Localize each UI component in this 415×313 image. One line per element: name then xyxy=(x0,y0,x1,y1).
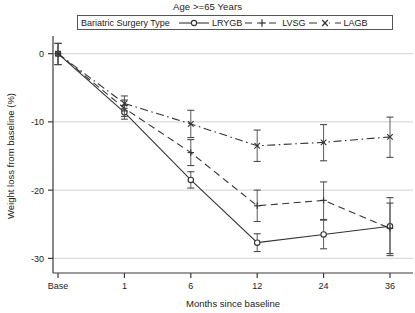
series-lrygb xyxy=(55,43,394,255)
y-tick-label: -20 xyxy=(31,186,44,196)
y-tick-label: 0 xyxy=(39,49,44,59)
series-lvsg xyxy=(55,43,394,253)
axis-spines xyxy=(53,36,413,273)
x-axis-title: Months since baseline xyxy=(186,298,280,309)
x-tick-label: 24 xyxy=(319,281,329,291)
data-series-layer xyxy=(55,43,394,255)
series-line xyxy=(58,54,390,146)
x-tick-label: 12 xyxy=(252,281,262,291)
series-line xyxy=(58,54,390,243)
x-axis-ticks: Base16122436 xyxy=(48,273,395,291)
y-axis-title: Weight loss from baseline (%) xyxy=(5,93,16,219)
data-point-marker xyxy=(188,149,194,155)
x-tick-label: 36 xyxy=(385,281,395,291)
data-point-marker xyxy=(188,177,193,182)
data-point-marker xyxy=(255,240,260,245)
y-tick-label: -10 xyxy=(31,117,44,127)
data-point-marker xyxy=(321,232,326,237)
chart-plot-area: 0-10-20-30 Base16122436 Months since bas… xyxy=(0,0,415,313)
x-tick-label: Base xyxy=(48,281,69,291)
chart-figure: Age >=65 Years Bariatric Surgery Type LR… xyxy=(0,0,415,313)
x-tick-label: 1 xyxy=(122,281,127,291)
y-tick-label: -30 xyxy=(31,254,44,264)
x-tick-label: 6 xyxy=(188,281,193,291)
gridlines xyxy=(53,54,413,259)
data-point-marker xyxy=(320,197,326,203)
y-axis-ticks: 0-10-20-30 xyxy=(31,49,53,264)
series-lagb xyxy=(55,43,394,161)
